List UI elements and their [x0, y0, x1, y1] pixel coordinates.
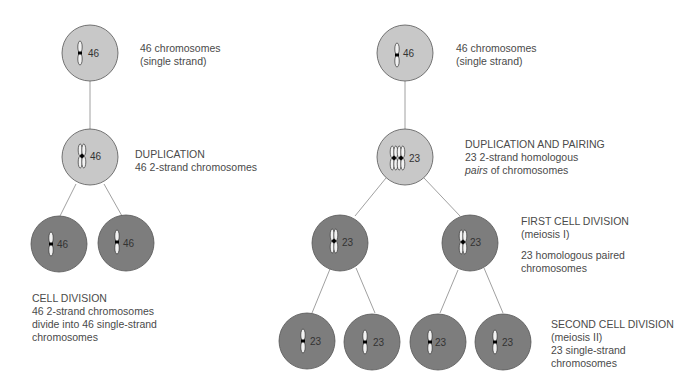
mitosis-stage2-label: DUPLICATION 46 2-strand chromosomes: [135, 148, 257, 174]
meiosis-cell-stage2: 23: [377, 129, 433, 185]
meiosis-stage4-label: SECOND CELL DIVISION (meiosis II) 23 sin…: [551, 318, 674, 370]
meiosis-cell-stage3-b: 23: [442, 215, 498, 271]
meiosis-cell-stage4-c: 23: [410, 314, 466, 370]
mitosis-cell-stage1: 46: [62, 25, 118, 81]
cell-count: 23: [435, 337, 447, 348]
cell-count: 46: [88, 48, 100, 59]
cell-count: 46: [403, 48, 415, 59]
meiosis-stage3-label: FIRST CELL DIVISION (meiosis I) 23 homol…: [521, 215, 629, 275]
mitosis-cell-stage2: 46: [62, 129, 118, 185]
mitosis-stage1-label: 46 chromosomes (single strand): [140, 42, 221, 68]
meiosis-cell-stage3-a: 23: [312, 215, 368, 271]
cell-count: 23: [373, 337, 385, 348]
meiosis-cell-stage4-b: 23: [344, 314, 400, 370]
mitosis-stage3-label: CELL DIVISION 46 2-strand chromosomes di…: [32, 292, 157, 344]
cell-count: 46: [90, 151, 102, 162]
mitosis-cell-stage3-a: 46: [31, 216, 87, 272]
cell-count: 23: [409, 153, 421, 164]
meiosis-cell-stage4-a: 23: [279, 313, 335, 369]
cell-count: 23: [310, 336, 322, 347]
cell-count: 46: [57, 239, 69, 250]
meiosis-stage1-label: 46 chromosomes (single strand): [456, 42, 537, 68]
cell-count: 23: [502, 337, 514, 348]
meiosis-cell-stage1: 46: [377, 25, 433, 81]
cell-count: 23: [342, 237, 354, 248]
meiosis-stage2-label: DUPLICATION AND PAIRING 23 2-strand homo…: [465, 138, 605, 177]
meiosis-connectors: [312, 81, 503, 313]
cell-count: 23: [470, 237, 482, 248]
cell-count: 46: [123, 238, 135, 249]
mitosis-cell-stage3-b: 46: [98, 215, 154, 271]
meiosis-cell-stage4-d: 23: [475, 314, 531, 370]
